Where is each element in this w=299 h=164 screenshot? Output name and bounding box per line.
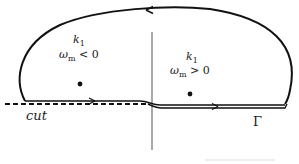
region-right-omega-label: ωm > 0 <box>170 65 210 79</box>
region-left-k-label: k1 <box>73 34 85 48</box>
cut-label: cut <box>26 109 47 122</box>
pole-point <box>188 92 193 97</box>
pole-point <box>78 82 83 87</box>
contour-diagram <box>0 0 299 164</box>
region-left-omega-label: ωm < 0 <box>59 49 99 63</box>
contour-gamma-label: Γ <box>253 115 262 128</box>
region-right-k-label: k1 <box>186 51 198 65</box>
